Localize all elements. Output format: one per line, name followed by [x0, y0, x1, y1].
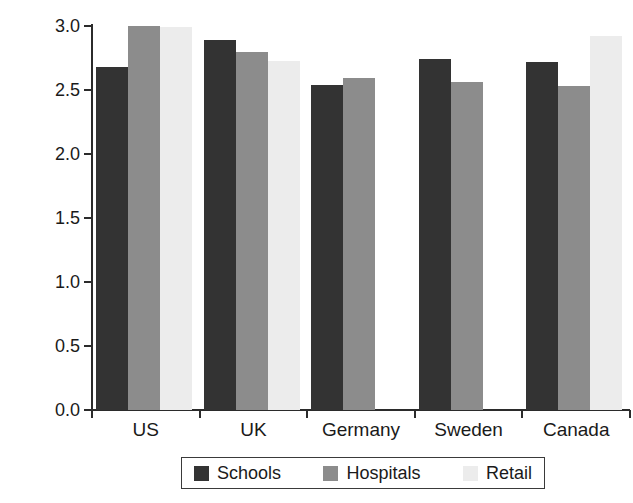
x-axis-tick-mark [629, 410, 631, 418]
chart-legend: Schools Hospitals Retail [181, 457, 545, 489]
bar-uk-hospitals [236, 52, 268, 410]
x-axis-tick-mark [306, 410, 308, 418]
bar-canada-retail [590, 36, 622, 410]
bar-us-hospitals [128, 26, 160, 410]
x-axis-label-sweden: Sweden [415, 418, 523, 442]
bar-chart-figure: Management score 0.00.51.01.52.02.53.0 U… [0, 0, 633, 503]
x-axis-label-germany: Germany [307, 418, 415, 442]
legend-label-retail: Retail [486, 464, 532, 482]
legend-item-hospitals: Hospitals [323, 464, 420, 482]
bar-uk-retail [268, 61, 300, 410]
bar-canada-schools [526, 62, 558, 410]
x-axis-tick-mark [199, 410, 201, 418]
x-axis-tick-mark [91, 410, 93, 418]
x-axis-tick-mark [414, 410, 416, 418]
bar-group-container [0, 0, 633, 410]
x-axis-label-us: US [92, 418, 200, 442]
bar-canada-hospitals [558, 86, 590, 410]
legend-label-schools: Schools [217, 464, 281, 482]
x-axis-label-canada: Canada [522, 418, 630, 442]
bar-germany-hospitals [343, 78, 375, 410]
retail-swatch-icon [463, 466, 478, 481]
bar-sweden-schools [419, 59, 451, 410]
bar-sweden-hospitals [451, 82, 483, 410]
x-axis-tick-mark [521, 410, 523, 418]
bar-germany-schools [311, 85, 343, 410]
legend-label-hospitals: Hospitals [346, 464, 420, 482]
legend-item-retail: Retail [463, 464, 532, 482]
bar-uk-schools [204, 40, 236, 410]
x-axis-label-uk: UK [200, 418, 308, 442]
legend-item-schools: Schools [194, 464, 281, 482]
hospitals-swatch-icon [323, 466, 338, 481]
bar-us-schools [96, 67, 128, 410]
bar-us-retail [160, 27, 192, 410]
schools-swatch-icon [194, 466, 209, 481]
